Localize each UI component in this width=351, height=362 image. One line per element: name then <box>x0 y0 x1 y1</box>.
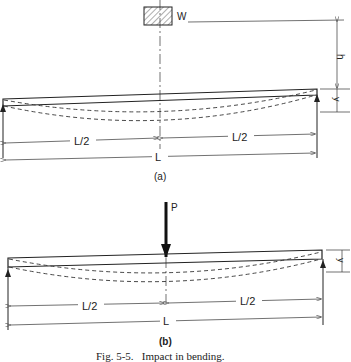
half-span-left-b: L/2 <box>82 300 97 312</box>
span-label-a: L <box>155 151 161 163</box>
height-label: h <box>335 54 346 60</box>
weight-label: W <box>177 11 187 22</box>
panel-a: W h y L/2 L/2 L (a) <box>0 0 350 182</box>
deflection-label-a: y <box>332 97 342 102</box>
panel-a-label: (a) <box>154 171 166 182</box>
impact-bending-diagram: W h y L/2 L/2 L (a) P <box>0 0 351 362</box>
load-label: P <box>171 202 178 213</box>
falling-weight <box>144 7 172 25</box>
half-span-right-a: L/2 <box>232 131 247 143</box>
load-arrow-icon <box>161 244 171 258</box>
half-span-right-b: L/2 <box>240 295 255 307</box>
half-span-left-a: L/2 <box>74 135 89 147</box>
panel-b-label: (b) <box>159 336 172 347</box>
deflection-label-b: y <box>336 258 346 263</box>
span-label-b: L <box>163 315 169 327</box>
figure-caption: Fig. 5-5. Impact in bending. <box>96 350 225 362</box>
panel-b: P y L/2 L/2 L (b) <box>5 202 350 347</box>
